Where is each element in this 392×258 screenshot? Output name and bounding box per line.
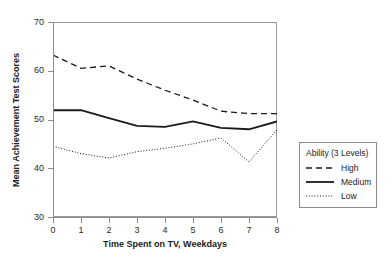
x-tick [81,218,82,223]
plot-area [53,22,277,217]
y-axis-title: Mean Achievement Test Scores [11,30,21,210]
y-tick-label: 70 [18,18,44,27]
x-tick-label: 3 [127,225,147,235]
y-tick-label: 40 [18,164,44,173]
x-tick-label: 1 [71,225,91,235]
figure-container: 3040506070 012345678 Mean Achievement Te… [0,0,392,258]
y-tick-label: 60 [18,66,44,75]
series-line-high [53,55,277,114]
x-tick-label: 7 [239,225,259,235]
legend-swatch-low-icon [306,192,334,200]
x-tick-label: 4 [155,225,175,235]
x-tick [53,218,54,223]
x-tick-label: 2 [99,225,119,235]
x-tick [249,218,250,223]
x-axis-title: Time Spent on TV, Weekdays [53,239,277,249]
x-tick [193,218,194,223]
legend-swatch-medium-icon [306,178,334,186]
x-tick [137,218,138,223]
y-tick [48,168,53,169]
y-tick [48,120,53,121]
x-tick-label: 5 [183,225,203,235]
series-line-low [53,130,277,162]
legend-title: Ability (3 Levels) [306,148,370,158]
legend-item-medium[interactable]: Medium [306,177,370,187]
x-tick [165,218,166,223]
legend-item-low[interactable]: Low [306,191,370,201]
x-tick [277,218,278,223]
x-tick-label: 0 [43,225,63,235]
legend-item-high[interactable]: High [306,163,370,173]
y-axis-line [53,22,54,218]
y-tick-label: 30 [18,213,44,222]
y-tick [48,22,53,23]
legend-label: Medium [341,177,371,187]
legend-swatch-high-icon [306,164,334,172]
legend: Ability (3 Levels) HighMediumLow [299,142,377,208]
legend-label: High [341,163,358,173]
legend-label: Low [341,191,357,201]
x-tick-label: 6 [211,225,231,235]
y-tick [48,71,53,72]
x-tick [109,218,110,223]
y-tick-label: 50 [18,115,44,124]
clipped-top-caption [150,0,390,3]
x-tick-label: 8 [267,225,287,235]
x-tick [221,218,222,223]
